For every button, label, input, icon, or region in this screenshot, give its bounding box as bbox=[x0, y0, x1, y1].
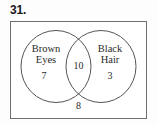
count-intersection: 10 bbox=[74, 60, 84, 71]
set-label-black-hair-line2: Hair bbox=[101, 54, 120, 65]
count-black-hair-only: 3 bbox=[108, 70, 113, 81]
set-label-black-hair-line1: Black bbox=[98, 43, 123, 54]
count-outside-both: 8 bbox=[76, 100, 81, 111]
set-label-brown-eyes-line2: Eyes bbox=[36, 54, 56, 65]
venn-diagram-figure: Brown Eyes Black Hair 7 10 3 8 bbox=[10, 21, 147, 120]
count-brown-eyes-only: 7 bbox=[42, 70, 47, 81]
exercise-number: 31. bbox=[10, 3, 26, 17]
screenshot-root: 31. Brown Eyes Black Hair 7 10 3 8 bbox=[0, 0, 157, 125]
set-label-brown-eyes-line1: Brown bbox=[32, 43, 61, 54]
